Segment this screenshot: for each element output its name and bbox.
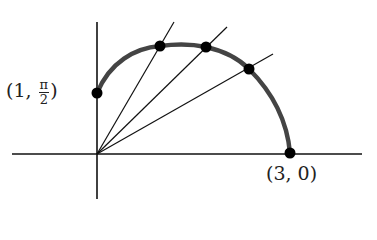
fraction-pi-over-2: π 2 xyxy=(39,78,50,106)
point-1 xyxy=(155,41,166,52)
point-end xyxy=(285,148,296,159)
point-start xyxy=(92,88,103,99)
label-start-open: (1, xyxy=(6,79,32,101)
label-start-close: ) xyxy=(50,79,57,101)
fraction-numerator: π xyxy=(39,78,50,93)
label-start-point: (1, π 2 ) xyxy=(6,78,58,106)
label-end-point: (3, 0) xyxy=(266,164,317,183)
point-3 xyxy=(244,64,255,75)
fraction-denominator: 2 xyxy=(39,93,50,107)
point-2 xyxy=(201,42,212,53)
